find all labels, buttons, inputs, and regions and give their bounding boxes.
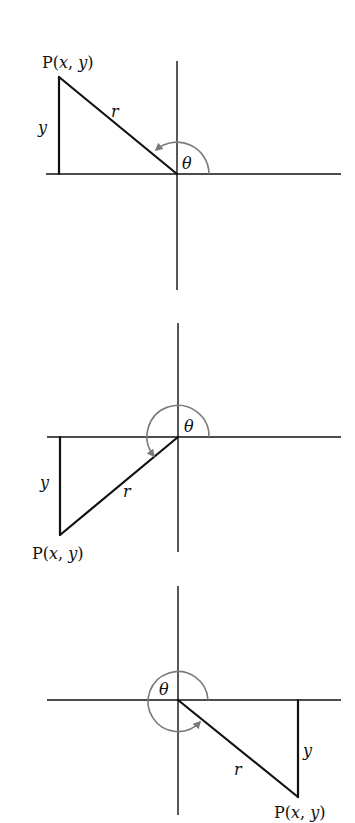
hypotenuse-r [178, 700, 298, 797]
angle-label-theta: θ [182, 154, 192, 173]
hyp-label-r: r [123, 482, 132, 501]
hyp-label-r: r [234, 760, 243, 779]
point-label: P(x, y) [32, 544, 84, 563]
side-label-y: y [37, 118, 48, 137]
point-label: P(x, y) [42, 53, 94, 72]
diagram-quadrant-4: θ y r P(x, y) [47, 586, 341, 822]
hypotenuse-r [59, 77, 177, 174]
point-label: P(x, y) [274, 803, 326, 822]
angle-label-theta: θ [184, 417, 194, 436]
diagram-canvas: P(x, y) y r θ θ y r P(x, y) θ y r P(x, y… [0, 0, 355, 823]
hypotenuse-r [60, 437, 178, 535]
angle-label-theta: θ [159, 680, 169, 699]
diagram-quadrant-3: θ y r P(x, y) [32, 323, 341, 563]
side-label-y: y [39, 473, 50, 492]
hyp-label-r: r [111, 102, 120, 121]
side-label-y: y [302, 741, 313, 760]
diagram-quadrant-2: P(x, y) y r θ [37, 53, 341, 290]
